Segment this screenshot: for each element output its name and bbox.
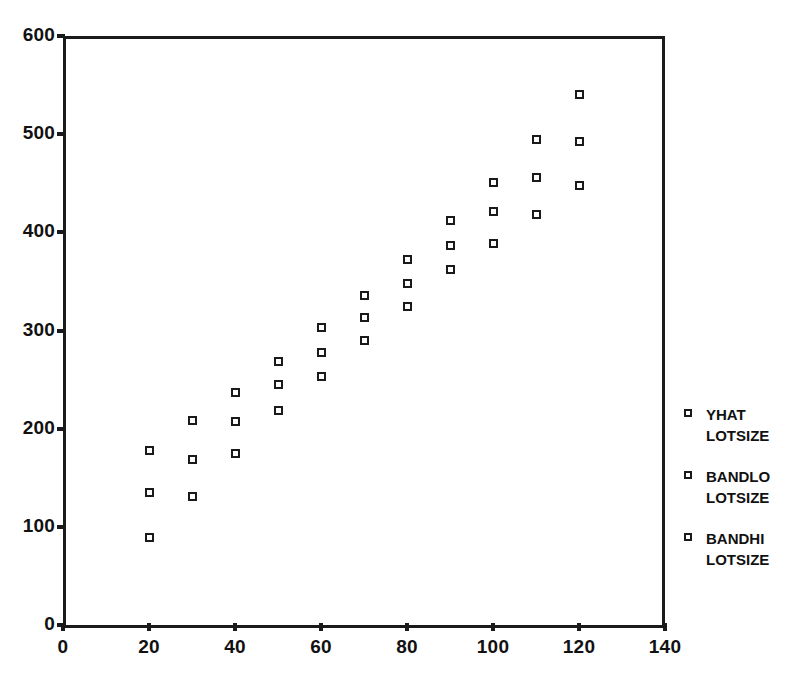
data-point-marker (188, 492, 197, 501)
x-axis-tick-label: 60 (291, 636, 351, 658)
legend-entry-bandhi[interactable]: BANDHILOTSIZE (684, 528, 806, 570)
legend-series-name: BANDHI (706, 528, 806, 549)
y-axis-tick-label: 400 (23, 220, 55, 242)
legend-series-variable: LOTSIZE (706, 549, 806, 570)
y-axis-tick-mark (57, 329, 65, 333)
data-point-marker (403, 255, 412, 264)
legend-marker-icon (684, 471, 692, 479)
plot-frame-right (662, 36, 665, 628)
y-axis-tick-mark (57, 132, 65, 136)
x-axis-tick-label: 140 (635, 636, 695, 658)
y-axis-tick-mark (57, 525, 65, 529)
chart-legend: YHATLOTSIZEBANDLOLOTSIZEBANDHILOTSIZE (684, 404, 806, 590)
data-point-marker (317, 323, 326, 332)
data-point-marker (188, 455, 197, 464)
data-point-marker (360, 313, 369, 322)
data-point-marker (274, 357, 283, 366)
data-point-marker (575, 90, 584, 99)
legend-series-variable: LOTSIZE (706, 425, 806, 446)
data-point-marker (489, 239, 498, 248)
data-point-marker (532, 173, 541, 182)
data-point-marker (317, 348, 326, 357)
plot-frame-bottom (63, 625, 665, 628)
x-axis-tick-mark (147, 623, 151, 631)
legend-marker-icon (684, 533, 692, 541)
x-axis-tick-label: 100 (463, 636, 523, 658)
x-axis-tick-label: 40 (205, 636, 265, 658)
y-axis-tick-label: 100 (23, 515, 55, 537)
data-point-marker (489, 207, 498, 216)
data-point-marker (274, 380, 283, 389)
x-axis-tick-mark (577, 623, 581, 631)
legend-series-name: BANDLO (706, 466, 806, 487)
scatter-chart-figure: 0100200300400500600 020406080100120140 Y… (0, 0, 806, 673)
legend-entry-yhat[interactable]: YHATLOTSIZE (684, 404, 806, 446)
data-point-marker (145, 488, 154, 497)
legend-entry-bandlo[interactable]: BANDLOLOTSIZE (684, 466, 806, 508)
x-axis-tick-label: 0 (33, 636, 93, 658)
data-point-marker (489, 178, 498, 187)
y-axis-tick-label: 200 (23, 417, 55, 439)
x-axis-tick-mark (61, 623, 65, 631)
legend-series-variable: LOTSIZE (706, 487, 806, 508)
y-axis-tick-mark (57, 34, 65, 38)
y-axis-tick-label: 600 (23, 24, 55, 46)
data-point-marker (446, 241, 455, 250)
y-axis-tick-label: 0 (44, 613, 55, 635)
y-axis-tick-label: 500 (23, 122, 55, 144)
data-point-marker (188, 416, 197, 425)
x-axis-tick-mark (319, 623, 323, 631)
data-point-marker (145, 446, 154, 455)
data-point-marker (532, 135, 541, 144)
data-point-marker (532, 210, 541, 219)
data-point-marker (575, 137, 584, 146)
data-point-marker (231, 417, 240, 426)
x-axis-tick-mark (233, 623, 237, 631)
data-point-marker (403, 279, 412, 288)
data-point-marker (403, 302, 412, 311)
data-point-marker (145, 533, 154, 542)
data-point-marker (317, 372, 326, 381)
legend-series-name: YHAT (706, 404, 806, 425)
y-axis-tick-label: 300 (23, 319, 55, 341)
data-point-marker (446, 216, 455, 225)
x-axis-tick-label: 120 (549, 636, 609, 658)
data-point-marker (360, 291, 369, 300)
y-axis-tick-mark (57, 230, 65, 234)
data-point-marker (575, 181, 584, 190)
data-point-marker (231, 449, 240, 458)
x-axis-tick-mark (491, 623, 495, 631)
data-point-marker (274, 406, 283, 415)
data-point-marker (231, 388, 240, 397)
legend-marker-icon (684, 409, 692, 417)
x-axis-tick-label: 80 (377, 636, 437, 658)
x-axis-tick-mark (663, 623, 667, 631)
plot-frame-top (63, 36, 665, 39)
x-axis-tick-label: 20 (119, 636, 179, 658)
data-point-marker (360, 336, 369, 345)
data-point-marker (446, 265, 455, 274)
x-axis-tick-mark (405, 623, 409, 631)
y-axis-tick-mark (57, 427, 65, 431)
